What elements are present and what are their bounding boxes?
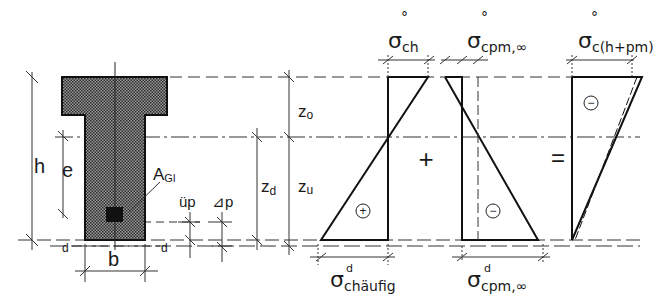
dimension-up-dp [178,212,232,262]
height-label: h [34,155,45,177]
offset-dp-label: ⊿p [212,193,233,210]
plus-operator: + [418,144,433,174]
diagram-3-top-sup: ° [591,9,598,25]
diagram-3-sign: − [587,96,594,110]
z-bottom-label: zu [298,177,313,197]
diagram-2-sign: − [489,204,496,218]
cover-left-label: d [62,241,69,255]
diagram-1-bottom-sup: d [346,262,353,275]
diagram-1-sign: + [359,204,366,218]
diagram-1-top-sup: ° [401,9,408,25]
diagram-1-bottom-label: σchäufig [330,267,396,294]
z-top-label: zo [298,102,314,122]
stress-diagram-load [321,77,428,240]
diagram-1-top-label: σch [388,28,419,55]
diagram-2-bottom-sup: d [484,262,491,275]
cover-right-label: d [161,241,168,255]
tendon-area-label: AGl [153,165,175,184]
diagram-3-top-label: σc(h+pm) [578,28,654,55]
z-d-label: zd [261,177,276,198]
eccentricity-label: e [62,159,73,181]
width-label: b [108,248,119,270]
diagram-3-dims [566,55,637,77]
diagram-2-top-label: σcpm,∞ [467,28,527,55]
t-beam-cross-section [62,62,167,250]
dimension-z [252,70,294,255]
diagram-2-top-sup: ° [481,9,488,25]
stress-diagram: h e AGl b d d üp ⊿p [0,0,671,302]
offset-up-label: üp [179,193,196,210]
equals-operator: = [551,144,565,171]
diagram-2-bottom-label: σcpm,∞ [467,267,527,294]
tendon-marker [106,207,123,222]
stress-diagram-resultant [572,77,642,240]
